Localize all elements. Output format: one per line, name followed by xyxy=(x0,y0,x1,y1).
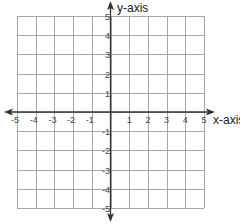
coordinate-plane: -5-4-3-2-112345 54321-1-2-3-4-5 y-axis x… xyxy=(0,0,240,224)
y-tick-label: 2 xyxy=(105,70,110,80)
y-tick-label: -1 xyxy=(102,127,110,137)
x-tick-label: -1 xyxy=(86,115,94,125)
y-axis-label: y-axis xyxy=(117,1,148,15)
x-tick-labels: -5-4-3-2-112345 xyxy=(11,115,207,125)
x-tick-label: 2 xyxy=(145,115,150,125)
y-tick-label: -2 xyxy=(102,146,110,156)
x-tick-label: -3 xyxy=(48,115,56,125)
y-tick-label: -5 xyxy=(102,204,110,214)
x-tick-label: -5 xyxy=(11,115,19,125)
x-tick-label: 3 xyxy=(164,115,169,125)
y-tick-label: 1 xyxy=(105,89,110,99)
x-axis-label: x-axis xyxy=(213,113,240,127)
x-tick-label: 5 xyxy=(201,115,206,125)
x-tick-label: 4 xyxy=(183,115,188,125)
y-tick-label: 4 xyxy=(105,31,110,41)
x-tick-label: 1 xyxy=(127,115,132,125)
y-tick-label: -3 xyxy=(102,166,110,176)
x-tick-label: -4 xyxy=(30,115,38,125)
y-tick-label: 5 xyxy=(105,12,110,22)
y-tick-label: -4 xyxy=(102,185,110,195)
x-tick-label: -2 xyxy=(67,115,75,125)
y-tick-label: 3 xyxy=(105,50,110,60)
